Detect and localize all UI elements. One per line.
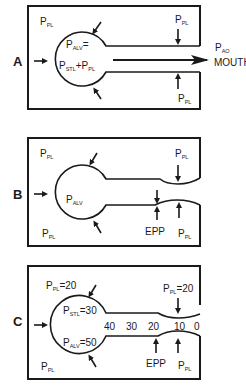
epp-label-c: EPP (146, 358, 166, 369)
pao-label: PAO (215, 42, 230, 54)
arrow-down-left-icon (91, 153, 97, 163)
arrow-down-left-icon (94, 22, 101, 32)
pstl-ppl-label-a: PSTL+PPL (59, 60, 95, 72)
ppl-top-left-c: PPL=20 (46, 280, 77, 292)
arrow-up-left-icon (90, 357, 96, 367)
airway-pressure-40: 40 (104, 321, 116, 332)
panel-label-c: C (13, 314, 23, 329)
airway-pressure-30: 30 (126, 321, 138, 332)
panel-label-a: A (13, 54, 23, 69)
arrow-down-left-icon (90, 285, 96, 295)
arrow-up-left-icon (95, 90, 101, 99)
ppl-top-left-b: PPL (40, 148, 53, 160)
ppl-top-right-b: PPL (175, 148, 188, 160)
ppl-top-left-a: PPL (40, 16, 53, 28)
airway-pressure-10: 10 (174, 321, 186, 332)
epp-label-b: EPP (145, 226, 165, 237)
airway-pressure-0: 0 (194, 321, 200, 332)
ppl-top-right-a: PPL (175, 14, 188, 26)
ppl-top-right-c: PPL=20 (163, 283, 194, 295)
panel-label-b: B (13, 187, 22, 202)
ppl-bottom-right-b: PPL (178, 228, 191, 240)
epp-diagram: A PPL PALV= PSTL+PPL PPL PPL PAO MOUTH B… (0, 0, 246, 392)
panel-c: C PPL=20 PSTL=30 PALV=50 PPL=20 PPL EPP … (13, 266, 200, 379)
airway-pressure-20: 20 (148, 321, 160, 332)
ppl-bottom-right-a: PPL (178, 93, 191, 105)
palv-label-a: PALV= (66, 39, 89, 51)
ppl-bottom-right-c: PPL (178, 360, 191, 372)
ppl-bottom-left-c: PPL (41, 361, 54, 373)
arrow-up-left-icon (95, 223, 101, 233)
pstl-label-c: PSTL=30 (63, 305, 97, 317)
palv-label-c: PALV=50 (63, 337, 97, 349)
panel-a: A PPL PALV= PSTL+PPL PPL PPL PAO MOUTH (13, 6, 246, 109)
panel-b: B PPL PALV PPL PPL EPP PPL (13, 138, 200, 246)
ppl-bottom-left-b: PPL (42, 228, 55, 240)
palv-label-b: PALV (66, 194, 83, 206)
mouth-label: MOUTH (214, 57, 246, 68)
